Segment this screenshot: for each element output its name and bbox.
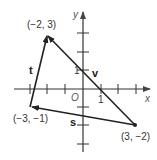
x-tick-label-1: 1 <box>98 94 104 105</box>
y-axis-label: y <box>72 9 79 20</box>
y-axis <box>77 12 89 152</box>
coordinate-diagram: y x O 1 1 (−2, 3) (−3, −1) (3, −2) t v s <box>0 0 157 160</box>
point-a-label: (−2, 3) <box>27 19 56 30</box>
point-c-label: (3, −2) <box>121 131 150 142</box>
point-c-dot <box>133 123 137 127</box>
point-b-label: (−3, −1) <box>13 113 48 124</box>
y-tick-label-1: 1 <box>74 65 80 76</box>
vector-s-label: s <box>70 116 76 128</box>
origin-label: O <box>71 92 79 103</box>
x-axis-label: x <box>144 93 151 104</box>
vector-t-label: t <box>29 64 33 76</box>
diagram-svg: y x O 1 1 (−2, 3) (−3, −1) (3, −2) t v s <box>0 0 157 160</box>
vector-v-label: v <box>92 67 99 79</box>
